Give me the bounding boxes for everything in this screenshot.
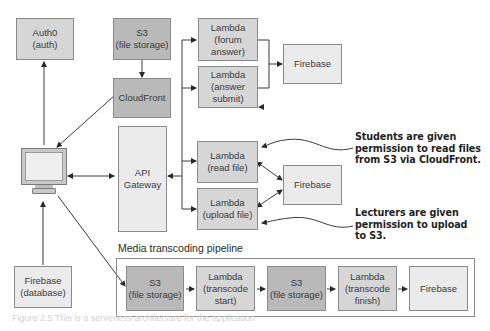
monitor-icon xyxy=(21,148,67,196)
node-s3-file-storage: S3 (file storage) xyxy=(113,18,171,60)
annotation-students: Students are given permission to read fi… xyxy=(355,131,481,166)
node-lambda-transcode-finish: Lambda (transcode finish) xyxy=(338,266,397,311)
figure-caption: Figure 2.5 This is a serverless architec… xyxy=(12,313,255,323)
node-pipeline-s3-source: S3 (file storage) xyxy=(126,266,184,311)
node-lambda-transcode-start: Lambda (transcode start) xyxy=(196,266,255,311)
node-firebase-mid: Firebase xyxy=(283,165,342,205)
node-pipeline-s3-output: S3 (file storage) xyxy=(267,266,326,311)
node-cloudfront: CloudFront xyxy=(113,78,171,118)
pipeline-group-label: Media transcoding pipeline xyxy=(118,242,243,254)
architecture-diagram: Auth0 (auth) S3 (file storage) CloudFron… xyxy=(0,0,490,331)
node-lambda-forum-answer: Lambda (forum answer) xyxy=(198,18,258,61)
node-lambda-read-file: Lambda (read file) xyxy=(197,141,258,183)
node-firebase-top: Firebase xyxy=(283,44,342,84)
node-firebase-database: Firebase (database) xyxy=(14,266,72,308)
node-api-gateway: API Gateway xyxy=(118,126,167,232)
annotation-lecturers: Lecturers are given permission to upload… xyxy=(355,207,467,242)
node-lambda-answer-submit: Lambda (answer submit) xyxy=(198,66,258,108)
node-lambda-upload-file: Lambda (upload file) xyxy=(197,188,258,230)
stray-arrowhead xyxy=(258,104,264,110)
node-auth0: Auth0 (auth) xyxy=(16,18,74,60)
node-pipeline-firebase: Firebase xyxy=(409,266,468,311)
